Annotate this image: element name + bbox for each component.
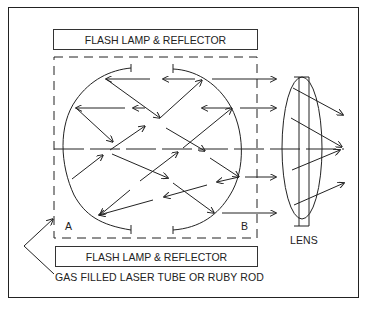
end-label-b: B [241,220,248,232]
lens [282,77,322,219]
lens-label: LENS [290,234,318,246]
laser-diagram-drawing [0,0,367,310]
end-label-a: A [65,220,72,232]
laser-tube-dashed [54,57,257,238]
tube-label: GAS FILLED LASER TUBE OR RUBY ROD [55,271,264,283]
